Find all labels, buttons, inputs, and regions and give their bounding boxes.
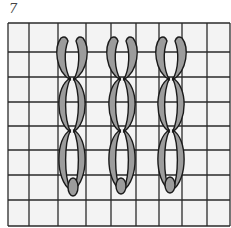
tie-down-stitch: [165, 177, 175, 193]
tie-down-stitch: [68, 178, 78, 196]
grid: [8, 23, 230, 226]
grid-background: [8, 23, 230, 226]
chain-stitch-diagram: [0, 0, 231, 228]
tie-down-stitch: [116, 178, 126, 194]
